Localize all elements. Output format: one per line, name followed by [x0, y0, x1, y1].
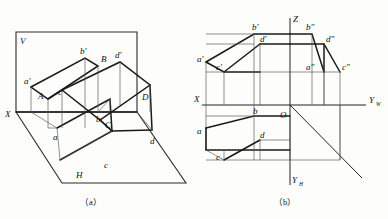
- figure-canvas: V H X a' b' c' d' A B C D a b c d （a）: [0, 0, 388, 219]
- label-d-top-a: d: [150, 136, 155, 146]
- label-origin-b: O: [280, 110, 287, 120]
- svg-text:Y: Y: [369, 95, 375, 105]
- label-C-a: C: [105, 120, 112, 130]
- label-h-plane: H: [75, 170, 83, 180]
- label-b-top-b: b: [253, 106, 258, 116]
- label-D-a: D: [141, 92, 149, 102]
- label-d-side-b: d": [326, 34, 335, 44]
- label-a-side-b: a": [306, 62, 315, 72]
- svg-text:H: H: [298, 181, 304, 187]
- top-view-b: [206, 105, 340, 160]
- label-a-front-b: a': [197, 54, 205, 64]
- label-x-axis-b: X: [194, 94, 200, 104]
- label-z-axis-b: Z: [293, 14, 299, 24]
- label-a-front-a: a': [24, 76, 32, 86]
- label-yw-axis-b: Y W: [369, 95, 381, 107]
- h-plane-outline: [16, 112, 186, 183]
- label-v-plane: V: [20, 36, 27, 46]
- v-plane-outline: [16, 32, 137, 112]
- label-yh-axis-b: Y H: [292, 175, 304, 187]
- diagram-b-orthographic: Z X O Y W Y H a' b' c' d' a" b" c" d" a …: [194, 0, 388, 219]
- label-d-front-a: d': [115, 50, 123, 60]
- svg-text:Y: Y: [292, 175, 298, 185]
- caption-b: （b）: [274, 197, 296, 207]
- label-c-top-a: c: [104, 160, 108, 170]
- label-d-top-b: d: [260, 130, 265, 140]
- construction-lines-a: [31, 58, 152, 130]
- label-B-a: B: [101, 54, 107, 64]
- label-d-front-b: d': [260, 34, 268, 44]
- svg-text:W: W: [376, 101, 381, 107]
- caption-a: （a）: [80, 197, 102, 207]
- label-b-front-b: b': [252, 22, 260, 32]
- label-b-top-a: b: [96, 114, 101, 124]
- label-c-side-b: c": [342, 62, 350, 72]
- label-a-top-a: a: [53, 132, 58, 142]
- front-view-b: [206, 34, 290, 150]
- label-a-top-b: a: [197, 126, 202, 136]
- label-b-front-a: b': [80, 46, 88, 56]
- label-x-axis-a: X: [4, 109, 11, 119]
- label-A-a: A: [37, 91, 44, 101]
- label-c-top-b: c: [216, 152, 220, 162]
- diagram-a-pictorial: V H X a' b' c' d' A B C D a b c d （a）: [0, 0, 194, 219]
- side-view-b: [290, 34, 340, 160]
- label-b-side-b: b": [306, 22, 315, 32]
